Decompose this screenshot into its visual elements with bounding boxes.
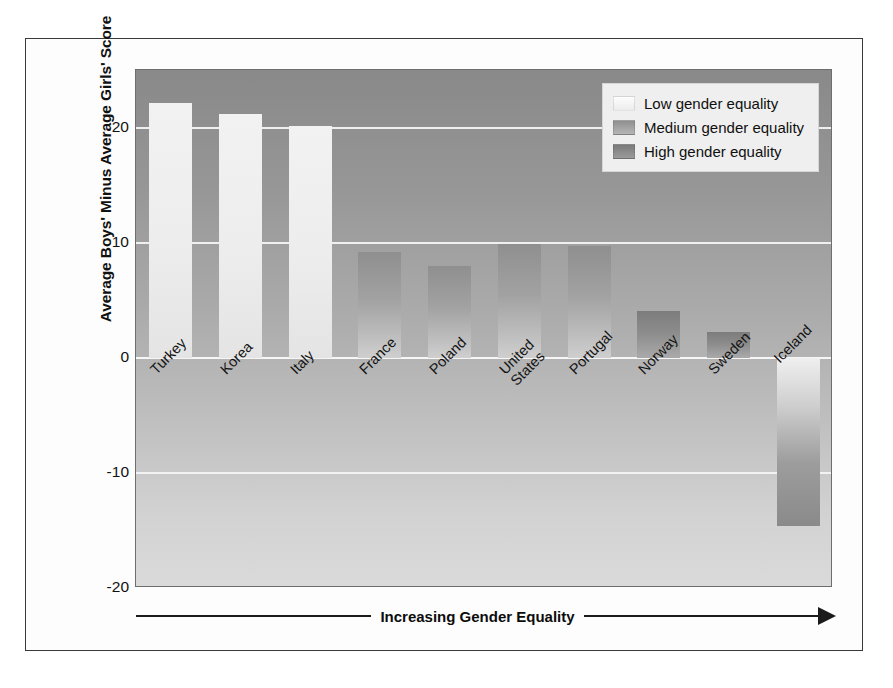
y-tick-label: 20 [76, 118, 129, 136]
y-tick-label: -20 [76, 578, 129, 596]
x-axis-caption-text: Increasing Gender Equality [371, 608, 583, 625]
legend-label-medium: Medium gender equality [644, 119, 804, 136]
bar-turkey [149, 103, 192, 357]
legend-label-low: Low gender equality [644, 95, 778, 112]
caption-rule-left [136, 615, 371, 617]
chart-legend: Low gender equalityMedium gender equalit… [602, 83, 819, 172]
bar-iceland [777, 358, 820, 526]
caption-rule-right [584, 615, 819, 617]
y-axis-tick-labels: 20100-10-20 [76, 39, 129, 650]
arrow-right-icon [818, 607, 836, 625]
legend-item-low: Low gender equality [613, 91, 804, 115]
legend-label-high: High gender equality [644, 143, 782, 160]
bar-italy [289, 126, 332, 357]
y-tick-label: 0 [76, 348, 129, 366]
plot-area: TurkeyKoreaItalyFrancePolandUnitedStates… [135, 69, 832, 587]
legend-swatch-high-icon [613, 144, 635, 159]
legend-item-high: High gender equality [613, 139, 804, 163]
bar-korea [219, 114, 262, 358]
y-tick-label: -10 [76, 463, 129, 481]
legend-swatch-medium-icon [613, 120, 635, 135]
legend-item-medium: Medium gender equality [613, 115, 804, 139]
chart-figure-frame: Average Boys' Minus Average Girls' Score… [25, 38, 863, 651]
gridline--10 [136, 472, 831, 474]
legend-swatch-low-icon [613, 96, 635, 111]
x-axis-caption: Increasing Gender Equality [136, 601, 836, 631]
y-tick-label: 10 [76, 233, 129, 251]
